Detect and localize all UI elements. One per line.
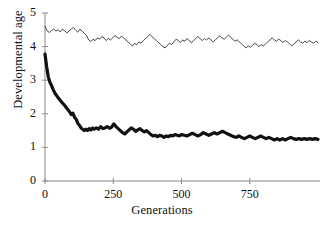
- x-tick-label: 500: [162, 187, 202, 202]
- x-tick-label: 250: [93, 187, 133, 202]
- y-axis-title: Developmental age: [11, 0, 26, 125]
- x-tick-label: 0: [25, 187, 65, 202]
- figure: 012345 0250500750 Developmental age Gene…: [0, 0, 324, 225]
- x-tick-label: 750: [230, 187, 270, 202]
- y-tick-label: 1: [14, 139, 36, 154]
- series-line-lower-thick-line: [45, 54, 318, 140]
- y-tick-label: 0: [14, 173, 36, 188]
- series-line-upper-thin-line: [45, 26, 318, 47]
- x-axis-title: Generations: [0, 203, 324, 218]
- axes: [42, 13, 320, 184]
- data-series-group: [45, 26, 318, 140]
